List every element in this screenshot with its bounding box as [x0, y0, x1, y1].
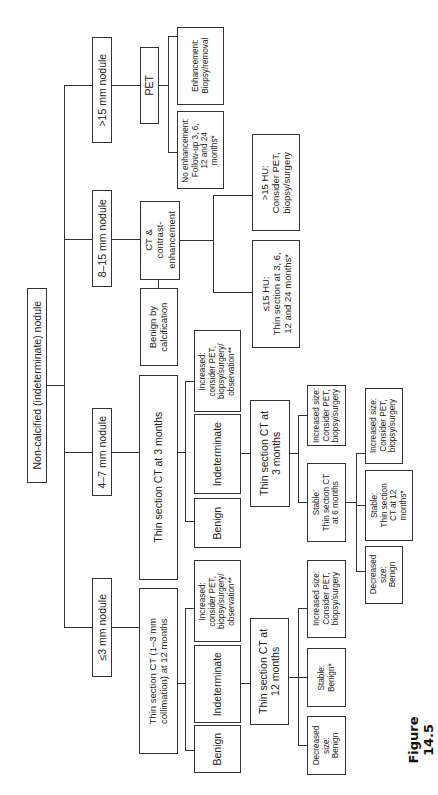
figure-caption: Figure 14.5 — [406, 700, 422, 780]
node-le3: ≤3 mm nodule — [92, 578, 112, 677]
node-no-enhancement: No enhancement: Follow-up 3, 6, 12 and 2… — [177, 111, 224, 189]
node-4-7-increased-size-2-label: Increased size: Consider PET, biopsy/sur… — [370, 398, 399, 453]
node-4-7-increased-size: Increased size: Consider PET, biopsy/sur… — [307, 385, 346, 446]
connector-le3-split — [185, 608, 186, 750]
connector-ct3-out — [177, 452, 185, 453]
connector-ct3b-split — [298, 415, 299, 502]
node-contrast-study: Thin-section CT & contrast- enhancement … — [140, 201, 180, 280]
node-le3-benign-label: Benign — [211, 733, 223, 766]
connector-hu-split — [213, 195, 214, 292]
node-le3-increased: Increased: consider PET, biopsy/surgery/… — [194, 560, 241, 642]
node-le3-increased-label: Increased: consider PET, biopsy/surgery/… — [198, 573, 237, 629]
connector-ct12-out — [177, 683, 185, 684]
connector-le3-dec — [298, 745, 307, 746]
node-ct-3-months-b-label: Thin section CT at 3 months — [258, 411, 283, 496]
connector-pet-out — [158, 85, 168, 86]
node-gt15hu: >15 HU: Consider PET, biopsy/surgery — [252, 134, 300, 231]
node-le3-increased-size: Increased size: Consider PET, biopsy/sur… — [307, 560, 346, 638]
connector-noenh — [168, 152, 177, 153]
node-ct-12-months-b: Thin section CT at 12 months — [250, 618, 289, 725]
connector-stable6-split — [356, 453, 357, 571]
connector-ct12b-out — [288, 677, 298, 678]
node-le3-stable-label: Stable: Benign* — [317, 663, 336, 692]
node-le3-indeterminate-label: Indeterminate — [211, 652, 223, 716]
node-enhancement: Enhancement: Biopsy/removal — [177, 27, 224, 105]
connector-4-7-ben — [185, 521, 194, 522]
node-4-7: 4–7 mm nodule — [92, 408, 112, 496]
node-4-7-indeterminate: Indeterminate — [194, 414, 241, 494]
connector-incsize — [298, 415, 307, 416]
node-ct-3-months-b: Thin section CT at 3 months — [250, 400, 290, 507]
node-stable-6-months: Stable: Thin section CT at 6 months — [307, 463, 346, 542]
node-4-7-decreased: Decreased size: Benign — [365, 546, 403, 604]
connector-4-7-ind — [240, 453, 250, 454]
node-contrast-study-label: Thin-section CT & contrast- enhancement … — [140, 212, 180, 270]
node-pet-label: PET — [143, 75, 155, 95]
node-ct-3-months-label: Thin section CT at 3 months — [152, 412, 164, 543]
node-gt15hu-label: >15 HU: Consider PET, biopsy/surgery — [259, 152, 293, 214]
figure-caption-text: Figure 14.5 — [406, 716, 436, 763]
node-le3-indeterminate: Indeterminate — [194, 645, 241, 723]
node-ct-3-months: Thin section CT at 3 months — [139, 375, 178, 580]
node-stable-12-months-label: Stable: Thin section CT at 12 months* — [370, 483, 409, 527]
node-le3-increased-size-label: Increased size: Consider PET, biopsy/sur… — [312, 571, 341, 626]
connector-4-7-split — [185, 381, 186, 521]
node-4-7-increased-label: Increased: consider PET, biopsy/surgery/… — [198, 343, 237, 399]
node-le3-stable: Stable: Benign* — [307, 648, 346, 707]
node-4-7-benign: Benign — [194, 498, 241, 548]
node-4-7-decreased-label: Decreased size: Benign — [370, 555, 399, 595]
connector-4-7-inc — [185, 381, 194, 382]
connector-le3-incsize — [298, 608, 307, 609]
connector-le3-ind — [240, 683, 250, 684]
node-le3-decreased-label: Decreased size: Benign — [312, 726, 341, 766]
node-gt15-label: >15 mm nodule — [96, 54, 108, 127]
root-node: Non-calcified (indeterminate) nodule — [27, 288, 47, 483]
node-4-7-label: 4–7 mm nodule — [96, 416, 108, 488]
node-ct-12-months-collimation: Thin section CT (1–3 mm collimation) at … — [139, 588, 178, 754]
root-label: Non-calcified (indeterminate) nodule — [31, 301, 43, 470]
node-4-7-benign-label: Benign — [211, 507, 223, 540]
connector-study-out — [179, 240, 213, 241]
node-no-enhancement-label: No enhancement: Follow-up 3, 6, 12 and 2… — [181, 118, 220, 183]
connector-stable12 — [356, 505, 365, 506]
connector-ct3b-out — [289, 453, 298, 454]
connector-pet-split — [168, 36, 169, 152]
node-benign-calcification-label: Benign by calcification — [148, 302, 170, 351]
node-le3-decreased: Decreased size: Benign — [307, 716, 346, 775]
root-connector — [46, 385, 64, 386]
node-le15hu: ≤15 HU: Thin section at 3, 6, 12 and 24 … — [252, 240, 300, 348]
node-stable-12-months: Stable: Thin section CT at 12 months* — [365, 470, 413, 541]
connector-le3-inc — [185, 608, 194, 609]
node-4-7-increased-size-2: Increased size: Consider PET, biopsy/sur… — [365, 388, 403, 464]
trunk-line — [64, 85, 65, 627]
node-le3-label: ≤3 mm nodule — [96, 594, 108, 660]
node-4-7-increased: Increased: consider PET, biopsy/surgery/… — [194, 330, 241, 412]
node-benign-calcification: Benign by calcification — [140, 288, 178, 366]
connector-stable6-out — [345, 502, 356, 503]
node-gt15: >15 mm nodule — [92, 37, 112, 143]
node-le3-benign: Benign — [194, 725, 241, 773]
node-4-7-increased-size-label: Increased size: Consider PET, biopsy/sur… — [312, 388, 341, 443]
connector-decreased — [356, 571, 365, 572]
connector-enh — [168, 36, 177, 37]
node-ct-12-months-b-label: Thin section CT at 12 months — [257, 629, 282, 714]
connector-study-calc — [158, 279, 159, 288]
node-le15hu-label: ≤15 HU: Thin section at 3, 6, 12 and 24 … — [259, 253, 293, 336]
node-ct-12-months-collimation-label: Thin section CT (1–3 mm collimation) at … — [147, 618, 169, 724]
connector-le3-ben — [185, 750, 194, 751]
node-4-7-indeterminate-label: Indeterminate — [211, 422, 223, 486]
connector-stable6 — [298, 502, 307, 503]
connector-gt15hu — [213, 195, 252, 196]
connector-le15hu — [213, 292, 252, 293]
connector-incsize2 — [356, 453, 365, 454]
node-8-15: 8–15 mm nodule — [92, 190, 112, 287]
connector-le3-stable — [298, 677, 307, 678]
node-stable-6-months-label: Stable: Thin section CT at 6 months — [312, 474, 341, 531]
node-8-15-label: 8–15 mm nodule — [96, 199, 108, 277]
node-enhancement-label: Enhancement: Biopsy/removal — [191, 38, 210, 94]
node-pet: PET — [140, 47, 159, 124]
